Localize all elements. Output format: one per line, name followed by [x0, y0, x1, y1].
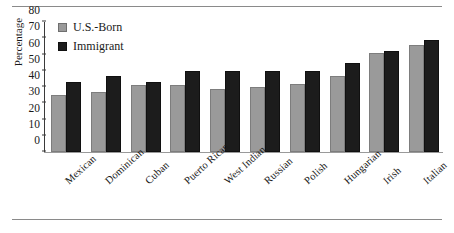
bar: [369, 53, 384, 152]
figure-container: Percentage 01020304050607080 MexicanDomi…: [0, 0, 454, 233]
bar-group: [409, 22, 439, 152]
y-axis-tick-mark: [42, 86, 46, 87]
y-axis-tick-mark: [42, 151, 46, 152]
x-axis-category-label: Polish: [302, 160, 329, 186]
bar: [424, 40, 439, 152]
y-axis-tick-label: 10: [10, 118, 45, 130]
y-axis-tick-mark: [42, 21, 46, 22]
y-axis-tick-label: 20: [10, 102, 45, 114]
bar-group: [250, 22, 280, 152]
y-axis-tick-label: 40: [10, 69, 45, 81]
x-axis-category-label: Russian: [262, 155, 295, 186]
bar: [250, 87, 265, 152]
legend-entry: Immigrant: [58, 39, 124, 54]
y-axis-tick-label: 70: [10, 20, 45, 32]
bar: [66, 82, 81, 152]
bar: [51, 95, 66, 152]
y-axis-tick-mark: [42, 134, 46, 135]
y-axis-tick-label: 60: [10, 37, 45, 49]
bar-group: [330, 22, 360, 152]
bar: [305, 71, 320, 152]
y-axis-tick-mark: [42, 118, 46, 119]
bar-group: [131, 22, 161, 152]
x-axis-category-label: Irish: [381, 165, 403, 186]
x-axis-category-label: Hungarian: [342, 148, 383, 186]
bar-group: [170, 22, 200, 152]
bar: [146, 82, 161, 152]
bar: [225, 71, 240, 152]
bar: [384, 51, 399, 152]
legend-swatch-icon: [58, 42, 67, 51]
x-axis-category-label: Cuban: [143, 159, 171, 186]
legend-entry: U.S.-Born: [58, 20, 124, 35]
x-axis-category-label: Mexican: [63, 153, 98, 186]
bottom-divider-rule: [12, 219, 442, 220]
bar: [170, 85, 185, 152]
bar: [106, 76, 121, 152]
legend-swatch-icon: [58, 23, 67, 32]
y-axis-tick-mark: [42, 37, 46, 38]
bar: [345, 63, 360, 152]
y-axis-tick-mark: [42, 102, 46, 103]
bar-group: [290, 22, 320, 152]
bar: [265, 71, 280, 152]
bar: [330, 76, 345, 152]
y-axis-tick-label: 80: [10, 4, 45, 16]
bar: [290, 84, 305, 152]
y-axis-tick-label: 50: [10, 53, 45, 65]
bar-group: [369, 22, 399, 152]
bar-group: [210, 22, 240, 152]
y-axis-tick-mark: [42, 69, 46, 70]
legend-entry-label: Immigrant: [73, 39, 124, 54]
top-divider-rule: [12, 6, 442, 7]
bar: [131, 85, 146, 152]
bar: [409, 45, 424, 152]
legend-entry-label: U.S.-Born: [73, 20, 122, 35]
y-axis-tick-label: 30: [10, 85, 45, 97]
y-axis-tick-mark: [42, 53, 46, 54]
y-axis-tick-label: 0: [10, 134, 45, 146]
chart-legend: U.S.-BornImmigrant: [58, 20, 124, 58]
x-axis-line: [44, 152, 443, 153]
bar: [91, 92, 106, 152]
x-axis-category-label: Italian: [421, 160, 449, 187]
bar: [185, 71, 200, 152]
